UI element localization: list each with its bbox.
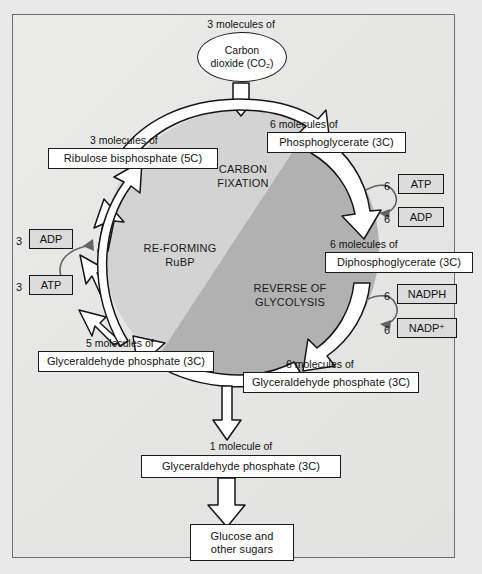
node-glucose: Glucose and other sugars <box>190 524 294 561</box>
cofactor-atp-right: ATP <box>398 174 444 194</box>
coefficient-nadp-plus: 6 <box>384 324 390 336</box>
cofactor-nadph: NADPH <box>397 284 457 304</box>
glucose-line1: Glucose and <box>211 530 274 543</box>
glucose-line2: other sugars <box>211 543 273 556</box>
coefficient-nadph: 6 <box>384 290 390 302</box>
coefficient-atp-left: 3 <box>16 281 22 293</box>
arrow-g3p-to-glucose <box>208 478 245 527</box>
cofactor-adp-left: ADP <box>29 229 73 249</box>
reverse-glycolysis-line2: GLYCOLYSIS <box>238 296 342 310</box>
label-reverse-of-glycolysis: REVERSE OF GLYCOLYSIS <box>238 282 342 310</box>
cofactor-atp-left: ATP <box>29 275 73 295</box>
calvin-cycle-diagram: 3 molecules of Carbon dioxide (CO₂) 6 mo… <box>0 0 482 574</box>
coefficient-adp-right: 6 <box>384 213 390 225</box>
cofactor-nadp-plus: NADP⁺ <box>397 318 457 338</box>
cofactor-adp-right: ADP <box>398 207 444 227</box>
reforming-rubp-line2: RuBP <box>130 256 230 270</box>
label-reforming-rubp: RE-FORMING RuBP <box>130 242 230 270</box>
coefficient-adp-left: 3 <box>16 235 22 247</box>
reforming-rubp-line1: RE-FORMING <box>130 242 230 256</box>
coefficient-atp-right: 6 <box>384 180 390 192</box>
label-carbon-fixation: CARBON FIXATION <box>198 163 288 191</box>
carbon-fixation-line2: FIXATION <box>198 177 288 191</box>
carbon-fixation-line1: CARBON <box>198 163 288 177</box>
reverse-glycolysis-line1: REVERSE OF <box>238 282 342 296</box>
